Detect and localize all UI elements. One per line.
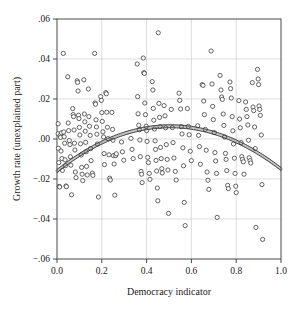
x-axis-title: Democracy indicator <box>127 286 212 297</box>
data-point <box>147 171 151 175</box>
data-point <box>250 81 254 85</box>
data-point <box>252 125 256 129</box>
data-point <box>209 49 213 53</box>
data-point <box>158 145 162 149</box>
data-point <box>230 115 234 119</box>
x-tick-label: 0.4 <box>141 266 153 276</box>
data-point <box>101 135 105 139</box>
data-point <box>145 139 149 143</box>
data-point <box>102 163 106 167</box>
data-point <box>102 152 106 156</box>
data-point <box>114 152 118 156</box>
data-point <box>80 172 84 176</box>
data-point <box>73 170 77 174</box>
data-point <box>67 129 71 133</box>
data-point <box>136 95 140 99</box>
data-point <box>100 111 104 115</box>
data-point <box>78 133 82 137</box>
data-point <box>214 171 218 175</box>
data-point <box>58 185 62 189</box>
data-point <box>201 83 205 87</box>
data-point <box>229 87 233 91</box>
data-point <box>210 82 214 86</box>
data-point <box>72 128 76 132</box>
data-point <box>72 141 76 145</box>
data-point <box>105 125 109 129</box>
data-point <box>258 107 262 111</box>
data-point <box>246 123 250 127</box>
data-point <box>141 56 145 60</box>
data-point <box>62 130 66 134</box>
data-point <box>153 147 157 151</box>
data-point <box>82 112 86 116</box>
data-point <box>260 183 264 187</box>
data-point <box>87 115 91 119</box>
data-point <box>64 185 68 189</box>
data-point <box>205 170 209 174</box>
data-point <box>197 145 201 149</box>
data-point <box>177 91 181 95</box>
data-point <box>119 140 123 144</box>
y-tick-label: .00 <box>38 134 50 144</box>
data-point <box>211 104 215 108</box>
data-point <box>56 122 60 126</box>
data-point <box>163 114 167 118</box>
data-point <box>255 67 259 71</box>
data-point <box>154 158 158 162</box>
data-point <box>221 112 225 116</box>
data-point <box>162 104 166 108</box>
data-point <box>105 110 109 114</box>
data-point <box>258 113 262 117</box>
data-point <box>108 178 112 182</box>
data-point <box>233 171 237 175</box>
data-point <box>207 187 211 191</box>
data-point <box>202 99 206 103</box>
data-point <box>228 80 232 84</box>
x-tick-label: 0.2 <box>96 266 108 276</box>
data-point <box>219 88 223 92</box>
data-point <box>202 113 206 117</box>
data-point <box>84 140 88 144</box>
data-point <box>59 149 63 153</box>
data-point <box>67 139 71 143</box>
data-point <box>196 133 200 137</box>
y-tick-label: −.06 <box>33 254 50 264</box>
data-point <box>189 159 193 163</box>
x-axis-tick-labels: 0.00.20.40.60.81.0 <box>51 266 287 276</box>
data-point <box>85 173 89 177</box>
data-point <box>183 224 187 228</box>
data-point <box>61 51 65 55</box>
data-point <box>104 92 108 96</box>
data-point <box>63 158 67 162</box>
data-point <box>249 161 253 165</box>
data-point <box>232 156 236 160</box>
data-point <box>76 89 80 93</box>
data-point <box>66 75 70 79</box>
data-point <box>86 87 90 91</box>
data-point <box>245 115 249 119</box>
data-point <box>93 51 97 55</box>
data-point <box>150 80 154 84</box>
data-point <box>142 71 146 75</box>
data-point <box>100 119 104 123</box>
data-point <box>99 98 103 102</box>
y-axis-title: Growth rate (unexplained part) <box>11 77 23 201</box>
data-point <box>244 100 248 104</box>
data-point <box>62 135 66 139</box>
data-point <box>188 149 192 153</box>
data-point <box>77 125 81 129</box>
data-point <box>254 225 258 229</box>
data-point <box>83 120 87 124</box>
data-point <box>95 132 99 136</box>
x-tick-label: 0.0 <box>51 266 63 276</box>
data-point <box>143 113 147 117</box>
data-point <box>152 118 156 122</box>
data-point <box>156 31 160 35</box>
data-point <box>84 164 88 168</box>
data-point <box>101 130 105 134</box>
data-point <box>157 101 161 105</box>
data-point <box>229 96 233 100</box>
data-point <box>224 157 228 161</box>
data-point <box>137 123 141 127</box>
data-point <box>180 132 184 136</box>
